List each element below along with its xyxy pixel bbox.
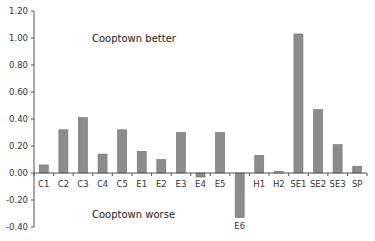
y-tick-label: 0.60: [9, 87, 28, 97]
bar-se1: [294, 34, 303, 173]
x-category-label: SE3: [330, 179, 346, 189]
x-category-label: C2: [58, 179, 69, 189]
x-category-label: C1: [38, 179, 49, 189]
bar-e4: [196, 173, 205, 177]
x-category-label: E1: [136, 179, 147, 189]
x-category-label: H2: [273, 179, 285, 189]
x-category-label: C3: [77, 179, 88, 189]
x-axis: C1C2C3C4C5E1E2E3E4E5E6H1H2SE1SE2SE3SP: [34, 173, 367, 231]
bar-e5: [216, 133, 225, 174]
bar-c3: [78, 118, 87, 173]
y-tick-label: 0.00: [9, 168, 28, 178]
x-category-label: SP: [352, 179, 363, 189]
bar-chart: 1.201.000.800.600.400.200.00-0.20-0.40 C…: [0, 0, 375, 241]
bar-c1: [39, 165, 48, 173]
x-category-label: C5: [116, 179, 127, 189]
y-tick-label: -0.20: [6, 195, 28, 205]
y-tick-label: 1.00: [9, 33, 28, 43]
annotation-better: Cooptown better: [92, 33, 177, 44]
y-tick-label: 0.40: [9, 114, 28, 124]
x-category-label: E5: [215, 179, 226, 189]
bar-c5: [118, 130, 127, 173]
x-category-label: E4: [195, 179, 206, 189]
x-category-label: C4: [97, 179, 108, 189]
bar-e1: [137, 151, 146, 173]
x-category-label: E2: [156, 179, 167, 189]
y-tick-label: -0.40: [6, 222, 28, 232]
x-category-label: E6: [234, 221, 245, 231]
bar-e3: [176, 133, 185, 174]
y-tick-label: 1.20: [9, 6, 28, 16]
bar-se2: [314, 110, 323, 173]
bar-c4: [98, 154, 107, 173]
y-tick-label: 0.80: [9, 60, 28, 70]
bar-e2: [157, 160, 166, 174]
x-category-label: SE1: [290, 179, 306, 189]
bar-h1: [255, 155, 264, 173]
bar-se3: [333, 145, 342, 173]
bars: [39, 34, 361, 218]
x-category-label: H1: [253, 179, 265, 189]
annotation-worse: Cooptown worse: [92, 209, 175, 220]
x-category-label: SE2: [310, 179, 326, 189]
bar-c2: [59, 130, 68, 173]
y-tick-label: 0.20: [9, 141, 28, 151]
y-axis: 1.201.000.800.600.400.200.00-0.20-0.40: [6, 6, 34, 232]
bar-e6: [235, 173, 244, 218]
x-category-label: E3: [176, 179, 187, 189]
bar-sp: [353, 166, 362, 173]
